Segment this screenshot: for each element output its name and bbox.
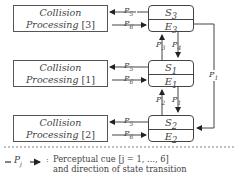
state-s2: S2 (149, 116, 193, 130)
collision-processing-2-box: Collision Processing [2] (13, 115, 108, 142)
cue-p5-top: P5 (124, 6, 133, 17)
process-index: [2] (82, 129, 95, 140)
collision-processing-1-box: Collision Processing [1] (13, 60, 108, 87)
state-s-label: S (165, 62, 172, 73)
cue-p5-mid: P5 (124, 61, 133, 72)
state-e2: E2 (149, 130, 193, 143)
state-box-3: S3 E3 (148, 5, 194, 32)
cue-p1: P1 (172, 95, 181, 106)
cue-p1-loop: P1 (208, 70, 219, 81)
process-title: Collision (14, 62, 107, 74)
legend-line-2: and direction of state transition (53, 164, 187, 174)
state-e-label: E (165, 76, 172, 87)
process-index: [3] (82, 19, 95, 30)
collision-processing-3-box: Collision Processing [3] (13, 5, 108, 32)
legend-description: Perceptual cue [j = 1, ..., 6] and direc… (53, 154, 187, 174)
state-e-label: E (165, 21, 172, 32)
process-subtitle: Processing (26, 74, 79, 85)
process-title: Collision (14, 117, 107, 129)
state-e-sub: 2 (172, 135, 177, 145)
state-s-label: S (165, 7, 172, 18)
process-subtitle: Processing (26, 19, 79, 30)
process-index: [1] (82, 74, 95, 85)
legend-symbol: Pj (14, 155, 22, 167)
process-title: Collision (14, 7, 107, 19)
cue-p3: P3 (156, 40, 165, 51)
state-box-1: S1 E1 (148, 60, 194, 87)
legend-colon: : (46, 155, 49, 164)
process-subtitle: Processing (26, 129, 79, 140)
state-s-label: S (165, 117, 172, 128)
cue-p6-bot: P6 (124, 129, 133, 140)
cue-p5-bot: P5 (124, 116, 133, 127)
state-box-2: S2 E2 (148, 115, 194, 142)
state-s3: S3 (149, 6, 193, 20)
legend-line-1: Perceptual cue [j = 1, ..., 6] (53, 154, 187, 164)
cue-p2: P2 (156, 95, 165, 106)
state-e-sub: 1 (172, 80, 177, 90)
state-e-label: E (165, 131, 172, 142)
state-e1: E1 (149, 75, 193, 88)
state-e-sub: 3 (172, 25, 177, 35)
state-e3: E3 (149, 20, 193, 33)
cue-p6-top: P6 (124, 19, 133, 30)
cue-p4: P4 (172, 40, 181, 51)
cue-p6-mid: P6 (124, 74, 133, 85)
state-s1: S1 (149, 61, 193, 75)
